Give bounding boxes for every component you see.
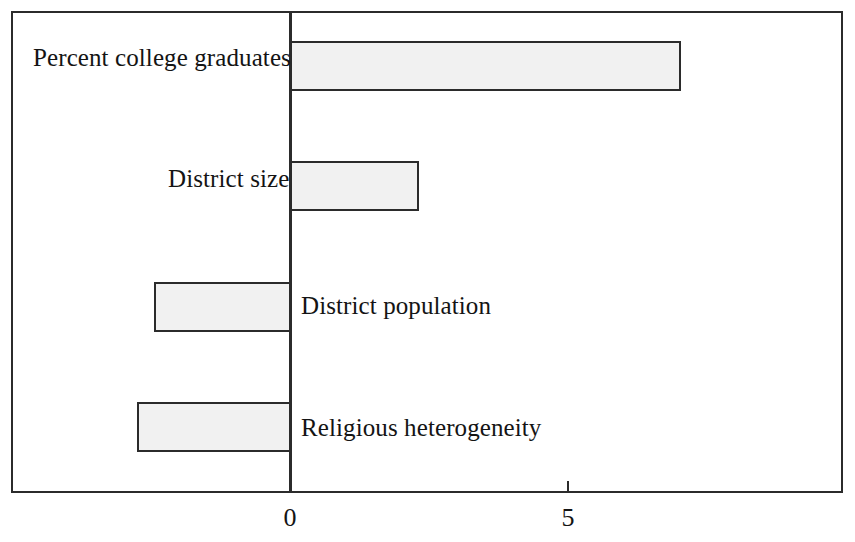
bar — [154, 282, 291, 332]
category-label: Percent college graduates — [33, 45, 291, 70]
horizontal-bar-chart: 05 Percent college graduatesDistrict siz… — [0, 0, 855, 542]
bar — [290, 41, 681, 91]
bar — [290, 161, 419, 211]
category-label: Religious heterogeneity — [301, 415, 541, 440]
bar — [137, 402, 291, 452]
x-axis-tick-label: 5 — [553, 505, 583, 531]
category-label: District population — [301, 293, 491, 318]
x-axis-tick-mark — [567, 481, 569, 493]
x-axis-tick-label: 0 — [275, 505, 305, 531]
category-label: District size — [168, 166, 289, 191]
x-axis-tick-mark — [289, 470, 291, 493]
